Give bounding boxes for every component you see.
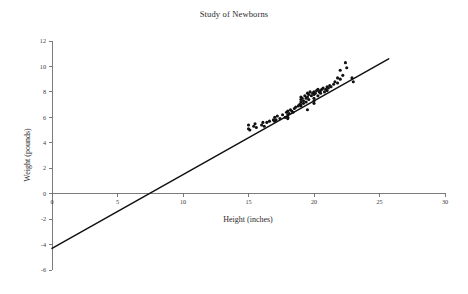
y-tick-label: 8 — [43, 88, 46, 95]
scatter-points-group — [247, 61, 355, 132]
y-tick-label: 10 — [40, 63, 46, 70]
data-point — [276, 115, 279, 118]
y-tick-label: -2 — [41, 215, 46, 222]
data-point — [247, 123, 250, 126]
axes-group — [52, 41, 445, 270]
data-point — [344, 61, 347, 64]
x-tick-label: 5 — [116, 198, 119, 205]
data-point — [254, 122, 257, 125]
data-point — [329, 85, 332, 88]
data-point — [291, 111, 294, 114]
data-point — [336, 81, 339, 84]
data-point — [305, 101, 308, 104]
y-axis-ticks — [49, 41, 53, 270]
data-point — [352, 80, 355, 83]
data-point — [339, 69, 342, 72]
regression-line — [52, 59, 389, 249]
data-point — [278, 117, 281, 120]
data-point — [312, 102, 315, 105]
x-axis-ticks — [52, 193, 445, 197]
x-tick-label: 15 — [245, 198, 251, 205]
y-tick-label: 12 — [40, 37, 46, 44]
data-point — [281, 113, 284, 116]
data-point — [341, 74, 344, 77]
y-axis-title: Weight (pounds) — [23, 128, 32, 182]
y-tick-label: 4 — [43, 139, 46, 146]
data-point — [248, 129, 251, 132]
data-point — [306, 108, 309, 111]
x-tick-label: 20 — [311, 198, 317, 205]
data-point — [255, 126, 258, 129]
x-tick-label: 0 — [50, 198, 53, 205]
data-point — [339, 78, 342, 81]
data-point — [350, 76, 353, 79]
data-point — [263, 125, 266, 128]
data-point — [316, 94, 319, 97]
data-point — [286, 116, 289, 119]
data-point — [307, 98, 310, 101]
x-tick-label: 30 — [442, 198, 448, 205]
x-tick-label: 10 — [180, 198, 186, 205]
y-axis-tick-labels: -6-4-2024681012 — [40, 37, 46, 273]
y-tick-label: 0 — [43, 190, 46, 197]
data-point — [274, 118, 277, 121]
x-tick-label: 25 — [376, 198, 382, 205]
data-point — [319, 92, 322, 95]
y-tick-label: 6 — [43, 114, 46, 121]
data-point — [268, 120, 271, 123]
y-tick-label: 2 — [43, 164, 46, 171]
x-axis-title: Height (inches) — [223, 215, 273, 224]
y-tick-label: -4 — [41, 241, 46, 248]
data-point — [288, 112, 291, 115]
x-axis-tick-labels: 051015202530 — [50, 198, 448, 205]
scatter-plot: -6-4-2024681012 051015202530 Height (inc… — [0, 0, 468, 294]
data-point — [345, 66, 348, 69]
data-point — [261, 121, 264, 124]
y-tick-label: -6 — [41, 266, 46, 273]
data-point — [299, 104, 302, 107]
chart-container: Study of Newborns -6-4-2024681012 051015… — [0, 0, 468, 294]
